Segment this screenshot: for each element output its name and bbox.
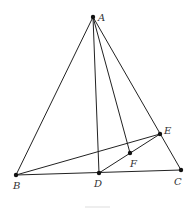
segment-AB — [16, 17, 93, 175]
label-B: B — [12, 180, 20, 191]
point-D — [97, 171, 101, 175]
segments — [16, 17, 181, 175]
geometry-diagram: A B C D E F — [0, 0, 196, 210]
segment-AC — [93, 17, 181, 170]
label-C: C — [174, 176, 182, 187]
segment-AF — [93, 17, 130, 153]
segment-BE — [16, 134, 160, 175]
labels: A B C D E F — [12, 12, 182, 191]
point-E — [158, 132, 162, 136]
point-B — [14, 173, 18, 177]
label-E: E — [163, 125, 172, 136]
label-D: D — [93, 178, 102, 189]
segment-AD — [93, 17, 99, 173]
point-A — [91, 15, 95, 19]
label-F: F — [129, 158, 138, 169]
point-F — [128, 151, 132, 155]
point-C — [179, 168, 183, 172]
label-A: A — [97, 12, 105, 23]
